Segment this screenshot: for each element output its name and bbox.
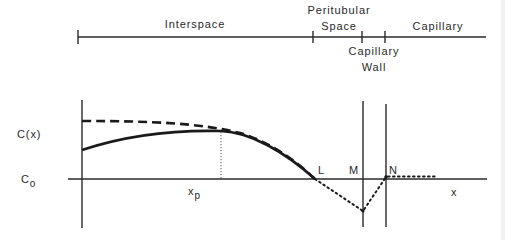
label-capillary-wall-1: Capillary <box>349 45 400 57</box>
label-point-L: L <box>318 164 325 176</box>
solid-curve <box>82 131 315 179</box>
label-peritubular-1: Peritubular <box>307 4 370 16</box>
label-c0-main: C <box>21 173 30 185</box>
label-capillary-wall-2: Wall <box>362 61 387 73</box>
point-M-min <box>361 209 364 212</box>
label-capillary: Capillary <box>413 20 464 32</box>
label-peritubular-2: Space <box>321 20 357 32</box>
region-scale-bar <box>78 30 486 44</box>
label-c0-sub: o <box>30 178 36 189</box>
point-N <box>384 175 388 179</box>
label-x-axis: x <box>451 186 457 198</box>
label-cx: C(x) <box>17 128 41 140</box>
label-interspace: Interspace <box>165 18 225 30</box>
label-xp-sub: p <box>194 190 200 201</box>
axes <box>68 100 487 228</box>
page-edge-strip <box>501 0 505 240</box>
label-point-M: M <box>349 164 359 176</box>
diagram-canvas <box>0 0 505 240</box>
label-xp: xp <box>188 185 201 201</box>
dotted-curve <box>315 177 437 212</box>
label-point-N: N <box>389 164 398 176</box>
label-c0: Co <box>21 173 36 189</box>
